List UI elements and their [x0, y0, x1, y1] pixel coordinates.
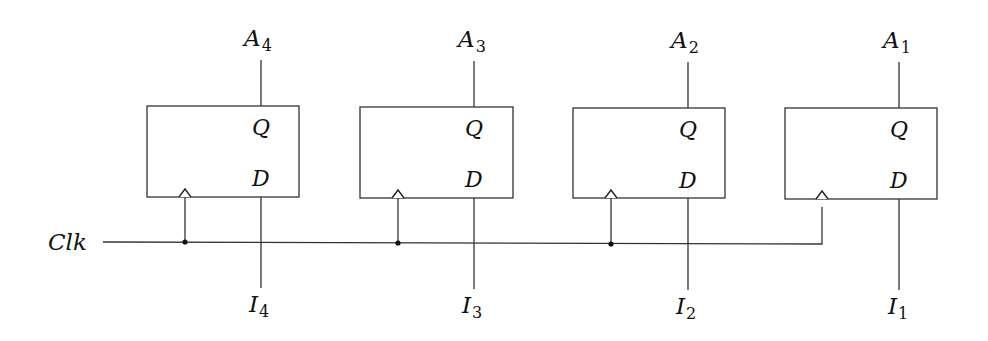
input-label-i4: I4: [248, 291, 269, 321]
junction-dot-icon: [395, 240, 400, 245]
flipflop-4: Q D A4 I4: [147, 25, 299, 321]
clock-bus-wire: [103, 207, 822, 244]
flipflop-1-box: [785, 108, 937, 199]
register-diagram: Clk Q D A4 I4 Q D A3 I3 Q D A2 I: [0, 0, 988, 341]
d-pin-label: D: [251, 166, 270, 191]
input-label-i2: I2: [675, 293, 696, 323]
flipflop-2-box: [573, 108, 725, 198]
q-pin-label: Q: [679, 117, 697, 142]
d-pin-label: D: [678, 168, 697, 193]
junction-dot-icon: [608, 241, 613, 246]
output-label-a3: A3: [456, 26, 486, 56]
junction-dot-icon: [182, 239, 187, 244]
q-pin-label: Q: [465, 116, 483, 141]
flipflop-3-box: [360, 107, 513, 198]
q-pin-label: Q: [890, 117, 908, 142]
flipflop-1: Q D A1 I1: [785, 27, 937, 323]
input-label-i1: I1: [887, 293, 908, 323]
d-pin-label: D: [464, 167, 483, 192]
input-label-i3: I3: [461, 292, 482, 322]
output-label-a1: A1: [881, 27, 911, 57]
d-pin-label: D: [889, 168, 908, 193]
output-label-a2: A2: [669, 27, 699, 57]
flipflop-2: Q D A2 I2: [573, 27, 725, 323]
flipflop-4-box: [147, 106, 299, 197]
q-pin-label: Q: [252, 115, 270, 140]
clock-label: Clk: [48, 229, 87, 255]
output-label-a4: A4: [242, 25, 272, 55]
flipflop-3: Q D A3 I3: [360, 26, 513, 322]
